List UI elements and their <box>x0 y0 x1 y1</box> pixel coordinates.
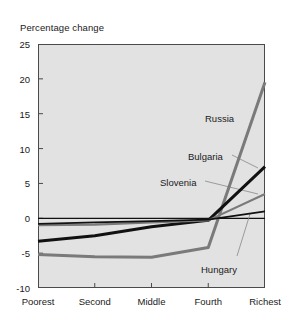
y-axis-tick-label: 15 <box>4 108 30 119</box>
series-label-hungary: Hungary <box>201 264 237 275</box>
y-axis-tick-label: -10 <box>4 283 30 294</box>
x-axis-tick-label: Fourth <box>178 296 238 307</box>
series-label-bulgaria: Bulgaria <box>188 151 223 162</box>
x-axis-tick-label: Poorest <box>8 296 68 307</box>
chart-figure: Percentage change 2520151050-5-10 Poores… <box>0 0 284 332</box>
y-axis-tick-label: 10 <box>4 143 30 154</box>
y-axis-tick-label: 25 <box>4 39 30 50</box>
y-axis-tick-label: 20 <box>4 73 30 84</box>
data-series-lines <box>38 82 265 257</box>
x-axis-tick-label: Second <box>65 296 125 307</box>
y-axis-tick-label: -5 <box>4 248 30 259</box>
series-label-russia: Russia <box>205 113 234 124</box>
y-axis-tick-label: 0 <box>4 213 30 224</box>
chart-canvas <box>0 0 284 332</box>
label-leader-lines <box>205 155 258 256</box>
series-line-russia <box>38 82 265 257</box>
x-axis-tick-label: Richest <box>235 296 284 307</box>
y-axis-tick-label: 5 <box>4 178 30 189</box>
x-axis-tick-label: Middle <box>122 296 182 307</box>
series-label-slovenia: Slovenia <box>160 177 196 188</box>
